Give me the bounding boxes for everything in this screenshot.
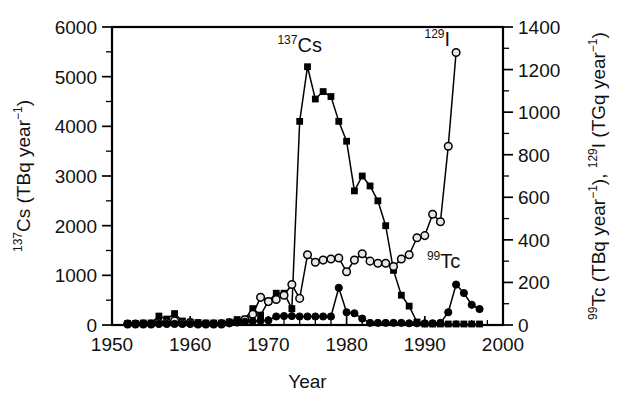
marker-137Cs <box>304 63 311 70</box>
marker-129I <box>288 281 296 289</box>
marker-129I <box>398 255 406 263</box>
marker-99Tc <box>163 320 170 327</box>
marker-99Tc <box>476 305 483 312</box>
figure-container: 1950196019701980199020000100020003000400… <box>0 0 628 397</box>
marker-99Tc <box>194 320 201 327</box>
marker-129I <box>304 251 312 259</box>
y-right-tick-label: 1200 <box>518 60 560 81</box>
marker-99Tc <box>124 320 131 327</box>
y-right-axis-title: 99Tc (TBq year−1), 129I (TGq year−1) <box>586 32 609 320</box>
marker-129I <box>296 295 304 303</box>
marker-99Tc <box>218 320 225 327</box>
marker-99Tc <box>335 284 342 291</box>
marker-99Tc <box>390 319 397 326</box>
marker-99Tc <box>406 320 413 327</box>
marker-99Tc <box>140 320 147 327</box>
y-right-tick-label: 800 <box>518 145 550 166</box>
marker-99Tc <box>249 318 256 325</box>
marker-99Tc <box>413 320 420 327</box>
x-tick-label: 1970 <box>247 334 289 355</box>
marker-99Tc <box>312 313 319 320</box>
marker-137Cs <box>171 310 178 317</box>
marker-99Tc <box>273 313 280 320</box>
y-left-tick-label: 0 <box>86 315 97 336</box>
y-right-tick-label: 200 <box>518 272 550 293</box>
y-right-tick-label: 600 <box>518 187 550 208</box>
marker-137Cs <box>288 305 295 312</box>
chart-canvas: 1950196019701980199020000100020003000400… <box>0 0 628 397</box>
marker-99Tc <box>327 313 334 320</box>
marker-129I <box>249 311 257 319</box>
marker-129I <box>272 296 280 304</box>
marker-129I <box>444 142 452 150</box>
marker-129I <box>374 259 382 267</box>
marker-137Cs <box>374 197 381 204</box>
marker-99Tc <box>226 319 233 326</box>
marker-129I <box>280 291 288 299</box>
tc-99-label: 99Tc <box>427 249 460 272</box>
marker-129I <box>421 232 429 240</box>
marker-137Cs <box>382 222 389 229</box>
marker-99Tc <box>210 320 217 327</box>
x-tick-label: 1950 <box>91 334 133 355</box>
marker-137Cs <box>367 183 374 190</box>
marker-99Tc <box>421 320 428 327</box>
marker-99Tc <box>320 313 327 320</box>
marker-129I <box>343 268 351 276</box>
marker-99Tc <box>187 320 194 327</box>
marker-99Tc <box>179 320 186 327</box>
y-right-tick-label: 1000 <box>518 102 560 123</box>
marker-129I <box>335 254 343 262</box>
marker-99Tc <box>288 312 295 319</box>
marker-137Cs <box>398 292 405 299</box>
marker-99Tc <box>445 309 452 316</box>
marker-137Cs <box>328 93 335 100</box>
marker-99Tc <box>359 315 366 322</box>
marker-99Tc <box>280 312 287 319</box>
x-axis-title: Year <box>288 371 327 392</box>
marker-129I <box>366 257 374 265</box>
marker-99Tc <box>234 319 241 326</box>
marker-137Cs <box>461 321 468 328</box>
y-right-tick-label: 1400 <box>518 17 560 38</box>
i-129-label: 129I <box>425 27 451 50</box>
marker-129I <box>351 256 359 264</box>
marker-99Tc <box>382 319 389 326</box>
marker-99Tc <box>366 319 373 326</box>
marker-129I <box>327 255 335 263</box>
marker-99Tc <box>374 319 381 326</box>
y-left-tick-label: 4000 <box>55 116 97 137</box>
marker-99Tc <box>241 318 248 325</box>
y-left-axis-title: 137Cs (TBq year−1) <box>11 100 34 252</box>
marker-99Tc <box>171 320 178 327</box>
marker-99Tc <box>132 320 139 327</box>
marker-129I <box>312 258 320 266</box>
marker-129I <box>413 234 421 242</box>
marker-99Tc <box>429 320 436 327</box>
marker-137Cs <box>312 96 319 103</box>
marker-99Tc <box>452 281 459 288</box>
marker-129I <box>452 49 460 57</box>
y-left-tick-label: 5000 <box>55 67 97 88</box>
marker-129I <box>390 263 398 271</box>
marker-137Cs <box>343 138 350 145</box>
marker-129I <box>405 251 413 259</box>
marker-137Cs <box>476 321 483 328</box>
y-right-tick-label: 0 <box>518 315 529 336</box>
y-left-tick-label: 1000 <box>55 265 97 286</box>
y-right-tick-label: 400 <box>518 230 550 251</box>
marker-99Tc <box>460 289 467 296</box>
marker-99Tc <box>148 320 155 327</box>
marker-99Tc <box>398 319 405 326</box>
y-left-tick-label: 2000 <box>55 216 97 237</box>
marker-99Tc <box>296 313 303 320</box>
marker-129I <box>319 256 327 264</box>
marker-137Cs <box>320 88 327 95</box>
series-line-137Cs <box>128 67 480 324</box>
marker-99Tc <box>343 309 350 316</box>
marker-129I <box>429 211 437 219</box>
marker-129I <box>382 259 390 267</box>
marker-137Cs <box>296 118 303 125</box>
marker-129I <box>437 218 445 226</box>
x-tick-label: 2000 <box>482 334 524 355</box>
